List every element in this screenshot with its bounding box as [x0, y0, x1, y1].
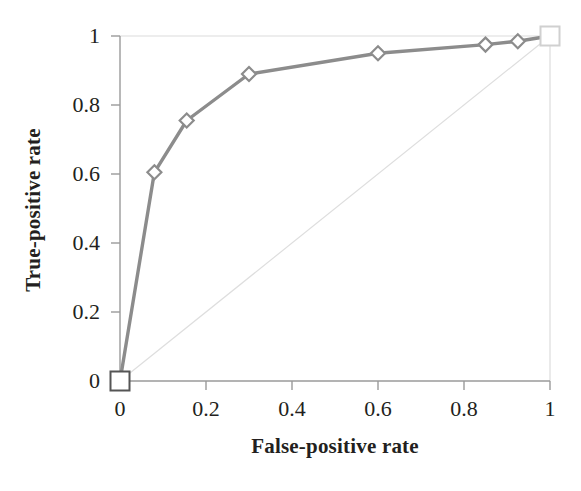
data-point-marker: [371, 46, 385, 60]
x-tick-label-0.2: 0.2: [192, 398, 220, 420]
x-tick-label-0.8: 0.8: [450, 398, 478, 420]
x-tick-label-0.6: 0.6: [364, 398, 392, 420]
y-tick-label-1: 1: [89, 25, 100, 47]
origin-square-marker: [111, 372, 130, 391]
y-tick-label-0.8: 0.8: [73, 94, 101, 116]
data-point-marker: [479, 38, 493, 52]
x-tick-label-0: 0: [115, 398, 126, 420]
y-tick-label-0.2: 0.2: [73, 301, 101, 323]
x-tick-label-1: 1: [545, 398, 556, 420]
y-tick-label-0.4: 0.4: [73, 232, 101, 254]
y-axis-title: True-positive rate: [21, 128, 46, 292]
x-axis-title: False-positive rate: [251, 434, 419, 459]
y-tick-label-0.6: 0.6: [73, 163, 101, 185]
x-tick-label-0.4: 0.4: [278, 398, 306, 420]
x-axis-ticks: [120, 381, 550, 390]
roc-curve-figure: 1 0.8 0.6 0.4 0.2 0 0 0.2 0.4 0.6 0.8 1 …: [0, 0, 581, 491]
corner-square-marker: [541, 27, 560, 46]
y-tick-label-0: 0: [89, 370, 100, 392]
y-axis-ticks: [111, 36, 120, 381]
chance-diagonal-line: [120, 36, 550, 381]
